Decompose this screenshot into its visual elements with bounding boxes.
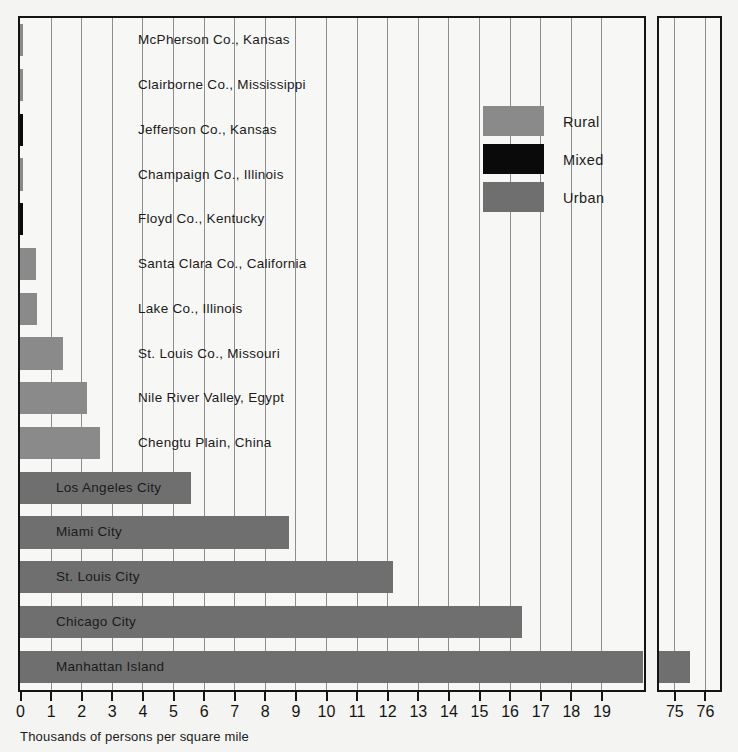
legend-label: Mixed <box>563 152 604 168</box>
x-tick-label-1: 1 <box>47 703 56 721</box>
x-tick-3 <box>111 692 113 701</box>
x-tick-label-19: 19 <box>593 703 611 721</box>
x-tick-11 <box>356 692 358 701</box>
legend-swatch-urban <box>483 182 544 212</box>
x-tick-label-2: 2 <box>77 703 86 721</box>
category-label: Clairborne Co., Mississippi <box>138 78 306 92</box>
x-tick-label-6: 6 <box>200 703 209 721</box>
bar-row <box>20 248 644 280</box>
break-plot-frame <box>657 16 722 692</box>
x-tick-13 <box>417 692 419 701</box>
x-tick-label-5: 5 <box>169 703 178 721</box>
x-tick-16 <box>509 692 511 701</box>
x-tick-label-76: 76 <box>696 703 714 721</box>
category-label: Chengtu Plain, China <box>138 436 272 450</box>
x-tick-6 <box>203 692 205 701</box>
bar-row <box>20 158 644 190</box>
bar-champaign-co-illinois <box>20 158 23 190</box>
x-tick-label-11: 11 <box>349 703 366 721</box>
x-tick-17 <box>540 692 542 701</box>
category-label: Champaign Co., Illinois <box>138 168 284 182</box>
x-tick-label-17: 17 <box>532 703 550 721</box>
x-tick-10 <box>326 692 328 701</box>
x-tick-label-7: 7 <box>230 703 239 721</box>
bar-lake-co-illinois <box>20 293 37 325</box>
bar-row-continuation <box>659 651 720 683</box>
category-label: Nile River Valley, Egypt <box>138 391 284 405</box>
bar-row <box>20 337 644 369</box>
bar-st-louis-co-missouri <box>20 337 63 369</box>
x-tick-4 <box>142 692 144 701</box>
category-label: Jefferson Co., Kansas <box>138 123 277 137</box>
break-bars-area <box>659 18 720 690</box>
bar-row <box>20 293 644 325</box>
category-label: Floyd Co., Kentucky <box>138 212 265 226</box>
x-tick-2 <box>81 692 83 701</box>
bar-nile-river-valley-egypt <box>20 382 87 414</box>
x-tick-1 <box>50 692 52 701</box>
x-tick-label-10: 10 <box>318 703 336 721</box>
x-tick-label-4: 4 <box>138 703 147 721</box>
bar-row <box>20 382 644 414</box>
main-bars-area: McPherson Co., KansasClairborne Co., Mis… <box>20 18 644 690</box>
bar-row <box>20 24 644 56</box>
bar-clairborne-co-mississippi <box>20 69 23 101</box>
category-label: Chicago City <box>56 615 136 629</box>
legend-swatch-mixed <box>483 144 544 174</box>
legend-label: Rural <box>563 114 600 130</box>
category-label: McPherson Co., Kansas <box>138 33 290 47</box>
x-tick-label-12: 12 <box>379 703 397 721</box>
bar-chengtu-plain-china <box>20 427 100 459</box>
category-label: Santa Clara Co., California <box>138 257 307 271</box>
x-tick-7 <box>234 692 236 701</box>
legend-label: Urban <box>563 190 605 206</box>
x-tick-label-9: 9 <box>291 703 300 721</box>
x-tick-0 <box>20 692 22 701</box>
bar-chart: McPherson Co., KansasClairborne Co., Mis… <box>0 0 738 752</box>
bar-jefferson-co-kansas <box>20 114 23 146</box>
x-tick-12 <box>387 692 389 701</box>
category-label: Los Angeles City <box>56 481 161 495</box>
x-tick-14 <box>448 692 450 701</box>
x-tick-label-0: 0 <box>16 703 25 721</box>
x-tick-label-13: 13 <box>409 703 427 721</box>
x-tick-label-3: 3 <box>108 703 117 721</box>
x-tick-label-8: 8 <box>261 703 270 721</box>
bar-floyd-co-kentucky <box>20 203 23 235</box>
x-tick-19 <box>601 692 603 701</box>
bar-mcpherson-co-kansas <box>20 24 23 56</box>
bar-row <box>20 69 644 101</box>
x-tick-18 <box>570 692 572 701</box>
category-label: St. Louis City <box>56 570 140 584</box>
x-tick-75 <box>674 692 676 701</box>
x-axis-title: Thousands of persons per square mile <box>20 729 249 744</box>
bar-row <box>20 427 644 459</box>
category-label: Manhattan Island <box>56 660 164 674</box>
x-tick-8 <box>264 692 266 701</box>
x-tick-15 <box>479 692 481 701</box>
category-label: St. Louis Co., Missouri <box>138 347 280 361</box>
main-plot-frame: McPherson Co., KansasClairborne Co., Mis… <box>18 16 646 692</box>
legend-swatch-rural <box>483 106 544 136</box>
bar-santa-clara-co-california <box>20 248 36 280</box>
x-tick-76 <box>704 692 706 701</box>
x-tick-label-75: 75 <box>666 703 684 721</box>
x-tick-9 <box>295 692 297 701</box>
x-tick-label-14: 14 <box>440 703 458 721</box>
bar-row <box>20 114 644 146</box>
category-label: Miami City <box>56 525 122 539</box>
category-label: Lake Co., Illinois <box>138 302 242 316</box>
x-tick-label-16: 16 <box>501 703 519 721</box>
x-tick-5 <box>173 692 175 701</box>
bar-continuation <box>659 651 690 683</box>
x-tick-label-15: 15 <box>471 703 489 721</box>
bar-row <box>20 203 644 235</box>
x-tick-label-18: 18 <box>562 703 580 721</box>
